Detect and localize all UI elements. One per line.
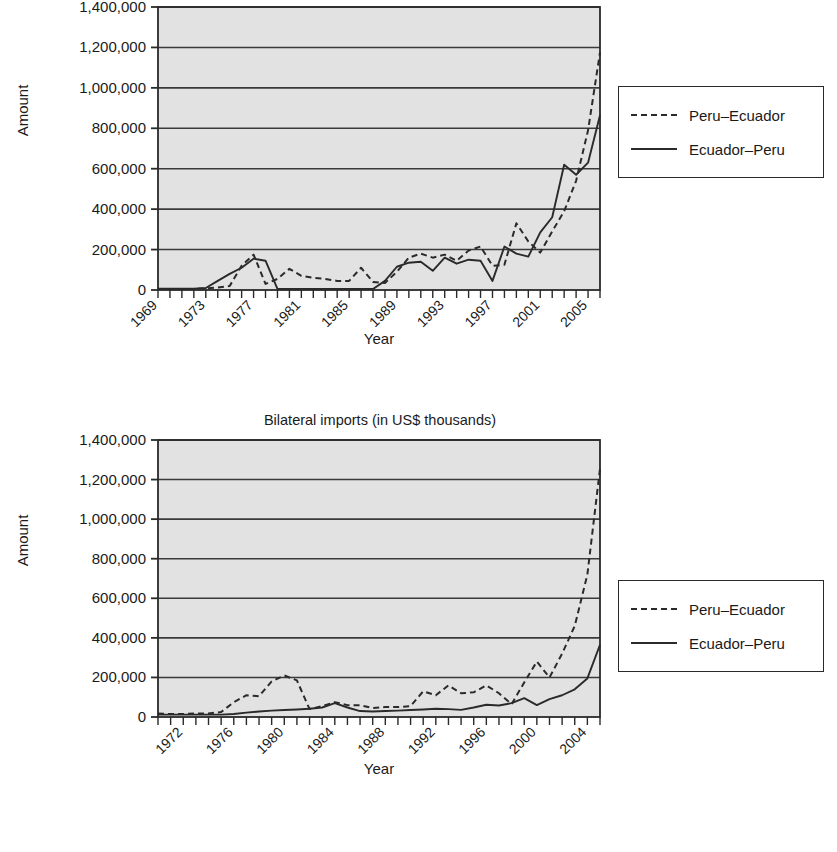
x-tick-label: 2001 bbox=[509, 297, 542, 330]
x-tick-label: 2000 bbox=[506, 724, 539, 757]
legend-item-peru-ecuador: Peru–Ecuador bbox=[619, 98, 823, 132]
x-axis-title-imports: Year bbox=[158, 760, 600, 777]
y-tick-label: 1,000,000 bbox=[79, 79, 146, 96]
legend-item-ecuador-peru: Ecuador–Peru bbox=[619, 132, 823, 166]
x-tick-label-group: 2005 bbox=[557, 297, 590, 330]
x-tick-label-group: 1977 bbox=[222, 297, 255, 330]
x-tick-label-group: 2004 bbox=[556, 724, 589, 757]
plot-background bbox=[158, 440, 600, 717]
x-tick-label: 1980 bbox=[253, 724, 286, 757]
x-tick-label: 2005 bbox=[557, 297, 590, 330]
y-tick-label: 1,400,000 bbox=[79, 0, 146, 15]
y-tick-label: 0 bbox=[138, 281, 146, 298]
x-tick-label: 1977 bbox=[222, 297, 255, 330]
x-tick-label-group: 1972 bbox=[152, 724, 185, 757]
x-tick-label: 1989 bbox=[366, 297, 399, 330]
x-tick-label: 2004 bbox=[556, 724, 589, 757]
x-tick-label: 1985 bbox=[318, 297, 351, 330]
y-tick-label: 1,000,000 bbox=[79, 510, 146, 527]
y-tick-label: 1,400,000 bbox=[79, 431, 146, 448]
y-tick-label: 0 bbox=[138, 708, 146, 725]
y-tick-label: 800,000 bbox=[92, 550, 146, 567]
x-axis-title-exports: Year bbox=[158, 330, 600, 347]
x-tick-label-group: 1993 bbox=[413, 297, 446, 330]
y-tick-label: 200,000 bbox=[92, 241, 146, 258]
legend-label-peru-ecuador: Peru–Ecuador bbox=[689, 107, 785, 124]
x-tick-label-group: 1969 bbox=[127, 297, 160, 330]
x-tick-label: 1976 bbox=[203, 724, 236, 757]
y-tick-label: 1,200,000 bbox=[79, 471, 146, 488]
x-tick-label-group: 1973 bbox=[175, 297, 208, 330]
x-tick-label-group: 1996 bbox=[455, 724, 488, 757]
y-axis-title-imports: Amount bbox=[14, 471, 31, 611]
x-tick-label: 1996 bbox=[455, 724, 488, 757]
x-tick-label-group: 1985 bbox=[318, 297, 351, 330]
legend-swatch-dashed-icon bbox=[631, 114, 677, 116]
plot-area-exports: 1,400,0001,200,0001,000,000800,000600,00… bbox=[0, 0, 837, 382]
y-tick-label: 600,000 bbox=[92, 160, 146, 177]
y-axis-title-exports: Amount bbox=[14, 41, 31, 181]
y-tick-label: 400,000 bbox=[92, 629, 146, 646]
x-tick-label-group: 1981 bbox=[270, 297, 303, 330]
x-tick-label-group: 1984 bbox=[304, 724, 337, 757]
legend-item-peru-ecuador: Peru–Ecuador bbox=[619, 592, 823, 626]
legend-label-ecuador-peru: Ecuador–Peru bbox=[689, 141, 785, 158]
x-tick-label: 1973 bbox=[175, 297, 208, 330]
legend-swatch-solid-icon bbox=[631, 148, 677, 150]
chart-imports: Bilateral imports (in US$ thousands) 1,4… bbox=[0, 412, 837, 812]
legend-label-ecuador-peru: Ecuador–Peru bbox=[689, 635, 785, 652]
legend-label-peru-ecuador: Peru–Ecuador bbox=[689, 601, 785, 618]
x-tick-label: 1969 bbox=[127, 297, 160, 330]
x-tick-label-group: 1992 bbox=[405, 724, 438, 757]
chart-exports: Bilateral exports (in US$ thousands) 1,4… bbox=[0, 0, 837, 382]
x-tick-label: 1988 bbox=[354, 724, 387, 757]
chart-svg-exports: 1,400,0001,200,0001,000,000800,000600,00… bbox=[0, 0, 837, 382]
y-tick-label: 600,000 bbox=[92, 589, 146, 606]
x-tick-label: 1997 bbox=[461, 297, 494, 330]
x-tick-label-group: 2000 bbox=[506, 724, 539, 757]
y-tick-label: 200,000 bbox=[92, 668, 146, 685]
legend-item-ecuador-peru: Ecuador–Peru bbox=[619, 626, 823, 660]
legend-imports: Peru–Ecuador Ecuador–Peru bbox=[618, 580, 824, 672]
x-tick-label: 1984 bbox=[304, 724, 337, 757]
y-tick-label: 400,000 bbox=[92, 200, 146, 217]
legend-swatch-dashed-icon bbox=[631, 608, 677, 610]
x-tick-label: 1972 bbox=[152, 724, 185, 757]
x-tick-label-group: 1989 bbox=[366, 297, 399, 330]
x-tick-label: 1992 bbox=[405, 724, 438, 757]
legend-exports: Peru–Ecuador Ecuador–Peru bbox=[618, 86, 824, 178]
x-tick-label: 1993 bbox=[413, 297, 446, 330]
x-tick-label-group: 1997 bbox=[461, 297, 494, 330]
legend-swatch-solid-icon bbox=[631, 642, 677, 644]
x-tick-label-group: 2001 bbox=[509, 297, 542, 330]
y-tick-label: 800,000 bbox=[92, 119, 146, 136]
x-tick-label-group: 1988 bbox=[354, 724, 387, 757]
x-tick-label: 1981 bbox=[270, 297, 303, 330]
y-tick-label: 1,200,000 bbox=[79, 38, 146, 55]
x-tick-label-group: 1980 bbox=[253, 724, 286, 757]
x-tick-label-group: 1976 bbox=[203, 724, 236, 757]
